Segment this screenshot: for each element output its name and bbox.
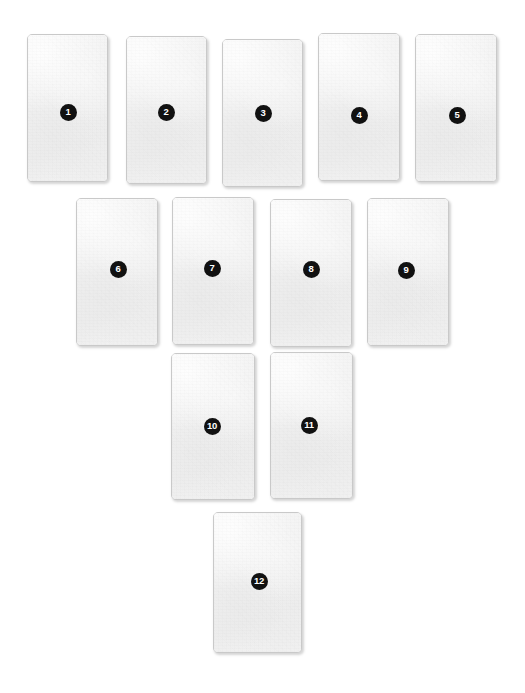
card-number-badge: 8 — [303, 261, 320, 278]
card-number-badge: 9 — [398, 262, 415, 279]
card-number-badge: 10 — [204, 418, 221, 435]
card-number-badge: 7 — [204, 260, 221, 277]
card-pyramid-layout: 123456789101112 — [0, 0, 525, 693]
card-number-badge: 5 — [449, 107, 466, 124]
card-number-badge: 3 — [255, 105, 272, 122]
card-number-badge: 1 — [60, 104, 77, 121]
card-number-badge: 2 — [158, 104, 175, 121]
card-number-badge: 6 — [110, 261, 127, 278]
card-number-badge: 11 — [301, 417, 318, 434]
card-number-badge: 12 — [251, 573, 268, 590]
card-number-badge: 4 — [351, 107, 368, 124]
